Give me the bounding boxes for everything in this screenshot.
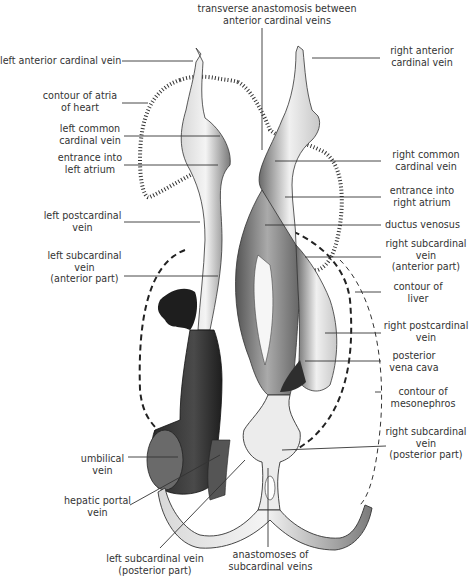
label-line: right common bbox=[380, 149, 472, 161]
label-line: contour of bbox=[383, 281, 453, 293]
label-contour-liver: contour of liver bbox=[383, 281, 453, 304]
label-line: vein bbox=[40, 222, 125, 234]
label-line: (posterior part) bbox=[380, 449, 472, 461]
label-ductus-venosus: ductus venosus bbox=[385, 219, 473, 231]
label-left-anterior-cardinal: left anterior cardinal vein bbox=[0, 55, 120, 67]
label-line: vein bbox=[42, 262, 127, 274]
label-line: left common bbox=[55, 123, 125, 135]
label-entrance-right-atrium: entrance into right atrium bbox=[382, 185, 462, 208]
label-line: entrance into bbox=[382, 185, 462, 197]
label-line: (anterior part) bbox=[380, 261, 472, 273]
left-cardinal-trunk bbox=[181, 48, 230, 330]
label-line: cardinal vein bbox=[55, 135, 125, 147]
label-line: vein bbox=[75, 465, 130, 477]
label-line: left postcardinal bbox=[40, 210, 125, 222]
label-line: left subcardinal bbox=[42, 250, 127, 262]
label-line: transverse anastomosis between bbox=[197, 3, 357, 15]
label-line: of heart bbox=[35, 102, 125, 114]
label-line: right anterior bbox=[372, 45, 472, 57]
label-line: cardinal vein bbox=[380, 161, 472, 173]
label-posterior-vena-cava: posterior vena cava bbox=[383, 350, 445, 373]
label-left-subcardinal-anterior: left subcardinal vein (anterior part) bbox=[42, 250, 127, 285]
label-left-postcardinal: left postcardinal vein bbox=[40, 210, 125, 233]
label-line: vein bbox=[380, 438, 472, 450]
label-umbilical-vein: umbilical vein bbox=[75, 453, 130, 476]
label-line: right postcardinal bbox=[380, 320, 472, 332]
label-line: umbilical bbox=[75, 453, 130, 465]
label-right-anterior-cardinal: right anterior cardinal vein bbox=[372, 45, 472, 68]
label-line: vein bbox=[60, 507, 135, 519]
label-line: anastomoses of bbox=[228, 549, 313, 561]
label-line: left subcardinal vein bbox=[105, 553, 205, 565]
label-line: right subcardinal bbox=[380, 238, 472, 250]
label-line: vein bbox=[380, 332, 472, 344]
label-line: contour of atria bbox=[35, 90, 125, 102]
label-entrance-left-atrium: entrance into left atrium bbox=[55, 152, 125, 175]
label-right-subcardinal-anterior: right subcardinal vein (anterior part) bbox=[380, 238, 472, 273]
label-line: right atrium bbox=[382, 197, 462, 209]
label-line: liver bbox=[383, 293, 453, 305]
label-line: hepatic portal bbox=[60, 495, 135, 507]
label-line: mesonephros bbox=[383, 398, 463, 410]
label-right-postcardinal: right postcardinal vein bbox=[380, 320, 472, 343]
label-line: right subcardinal bbox=[380, 426, 472, 438]
label-line: cardinal vein bbox=[372, 57, 472, 69]
label-line: vena cava bbox=[383, 362, 445, 374]
label-right-subcardinal-posterior: right subcardinal vein (posterior part) bbox=[380, 426, 472, 461]
label-left-subcardinal-posterior: left subcardinal vein (posterior part) bbox=[105, 553, 205, 576]
label-left-common-cardinal: left common cardinal vein bbox=[55, 123, 125, 146]
label-line: entrance into bbox=[55, 152, 125, 164]
label-transverse-anastomosis: transverse anastomosis between anterior … bbox=[197, 3, 357, 26]
label-line: (posterior part) bbox=[105, 565, 205, 577]
label-contour-atria: contour of atria of heart bbox=[35, 90, 125, 113]
label-line: left atrium bbox=[55, 164, 125, 176]
label-line: posterior bbox=[383, 350, 445, 362]
label-anastomoses-subcardinal: anastomoses of subcardinal veins bbox=[228, 549, 313, 572]
label-line: (anterior part) bbox=[42, 273, 127, 285]
label-contour-mesonephros: contour of mesonephros bbox=[383, 386, 463, 409]
label-hepatic-portal: hepatic portal vein bbox=[60, 495, 135, 518]
label-line: subcardinal veins bbox=[228, 561, 313, 573]
label-line: ductus venosus bbox=[385, 219, 473, 231]
label-line: contour of bbox=[383, 386, 463, 398]
label-line: vein bbox=[380, 250, 472, 262]
label-line: left anterior cardinal vein bbox=[0, 55, 120, 67]
label-line: anterior cardinal veins bbox=[197, 15, 357, 27]
label-right-common-cardinal: right common cardinal vein bbox=[380, 149, 472, 172]
